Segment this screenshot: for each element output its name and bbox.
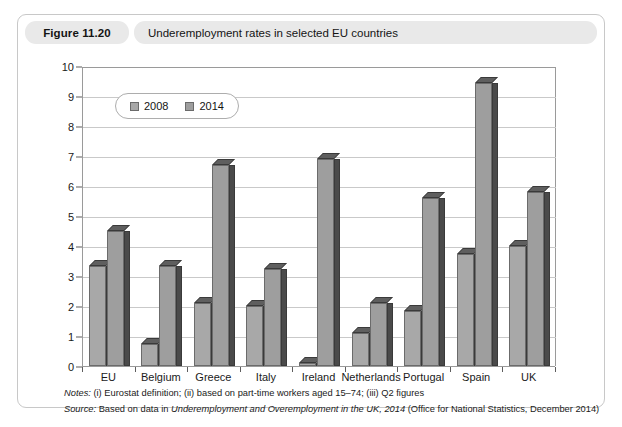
y-axis-tick-label: 6: [48, 181, 74, 193]
bar-front-face: [107, 231, 124, 366]
source-text-b: (Office for National Statistics, Decembe…: [405, 404, 599, 414]
bar-front-face: [422, 198, 439, 366]
legend-swatch-2008: [130, 102, 139, 111]
bar-italy-2008: [246, 306, 263, 366]
figure-title: Underemployment rates in selected EU cou…: [134, 21, 597, 44]
figure-card: Figure 11.20 Underemployment rates in se…: [17, 14, 605, 408]
bar-front-face: [141, 344, 158, 367]
bar-spain-2008: [457, 254, 474, 367]
bar-front-face: [509, 246, 526, 366]
source-line: Source: Based on data in Underemployment…: [64, 401, 590, 417]
bar-front-face: [457, 254, 474, 367]
x-axis-label-uk: UK: [521, 371, 536, 383]
bar-side-face: [492, 83, 498, 367]
x-axis-tick: [450, 367, 451, 372]
figure-header: Figure 11.20 Underemployment rates in se…: [25, 21, 597, 44]
notes-line: Notes: (i) Eurostat definition; (ii) bas…: [64, 385, 590, 401]
bar-front-face: [89, 266, 106, 367]
y-axis-tick-label: 3: [48, 271, 74, 283]
y-axis-tick-label: 0: [48, 361, 74, 373]
bar-front-face: [212, 165, 229, 366]
bar-belgium-2014: [159, 266, 176, 367]
y-axis-tick-label: 7: [48, 151, 74, 163]
x-axis-label-ireland: Ireland: [302, 371, 336, 383]
bar-front-face: [352, 333, 369, 366]
y-axis-tick-label: 4: [48, 241, 74, 253]
bar-side-face: [439, 198, 445, 366]
x-axis-tick: [397, 367, 398, 372]
bar-side-face: [387, 303, 393, 366]
bar-uk-2014: [527, 192, 544, 366]
bar-front-face: [370, 303, 387, 366]
legend-label-2014: 2014: [199, 100, 223, 112]
bar-front-face: [299, 363, 316, 366]
notes-text: (i) Eurostat definition; (ii) based on p…: [91, 388, 424, 398]
bar-ireland-2014: [317, 159, 334, 366]
bar-side-face: [281, 269, 287, 367]
bar-portugal-2014: [422, 198, 439, 366]
figure-number: Figure 11.20: [25, 21, 129, 44]
legend-label-2008: 2008: [144, 100, 168, 112]
x-axis-label-spain: Spain: [462, 371, 490, 383]
y-axis-tick-label: 2: [48, 301, 74, 313]
bar-uk-2008: [509, 246, 526, 366]
legend-swatch-2014: [185, 102, 194, 111]
bar-portugal-2008: [404, 311, 421, 367]
bar-side-face: [124, 231, 130, 366]
source-publication-title: Underemployment and Overemployment in th…: [171, 404, 405, 414]
y-axis-tick-label: 8: [48, 121, 74, 133]
y-axis-tick-label: 1: [48, 331, 74, 343]
legend-item-2008: 2008: [130, 100, 168, 112]
bar-front-face: [159, 266, 176, 367]
bar-side-face: [176, 266, 182, 367]
x-axis-label-portugal: Portugal: [403, 371, 444, 383]
chart-legend: 20082014: [115, 93, 239, 119]
x-axis-label-greece: Greece: [195, 371, 231, 383]
x-axis-label-italy: Italy: [256, 371, 276, 383]
bar-front-face: [527, 192, 544, 366]
bar-side-face: [229, 165, 235, 366]
bar-side-face: [334, 159, 340, 366]
bar-front-face: [404, 311, 421, 367]
bar-greece-2014: [212, 165, 229, 366]
bar-belgium-2008: [141, 344, 158, 367]
x-axis-tick: [135, 367, 136, 372]
source-text-a: Based on data in: [96, 404, 171, 414]
bar-eu-2014: [107, 231, 124, 366]
x-axis-tick: [187, 367, 188, 372]
bar-side-face: [544, 192, 550, 366]
x-axis-label-belgium: Belgium: [141, 371, 181, 383]
bar-front-face: [264, 269, 281, 367]
bar-eu-2008: [89, 266, 106, 367]
bar-italy-2014: [264, 269, 281, 367]
bar-spain-2014: [475, 83, 492, 367]
y-axis-tick-label: 5: [48, 211, 74, 223]
notes-block: Notes: (i) Eurostat definition; (ii) bas…: [64, 385, 590, 417]
y-axis-labels: 012345678910: [48, 67, 74, 367]
notes-label: Notes:: [64, 388, 91, 398]
bar-netherlands-2008: [352, 333, 369, 366]
x-axis-tick: [502, 367, 503, 372]
bar-front-face: [194, 303, 211, 366]
x-axis-tick: [292, 367, 293, 372]
x-axis-label-eu: EU: [101, 371, 116, 383]
source-label: Source:: [64, 404, 96, 414]
x-axis-tick: [345, 367, 346, 372]
x-axis-tick: [82, 367, 83, 372]
bar-netherlands-2014: [370, 303, 387, 366]
bar-greece-2008: [194, 303, 211, 366]
bar-front-face: [246, 306, 263, 366]
bar-ireland-2008: [299, 363, 316, 366]
bar-front-face: [317, 159, 334, 366]
x-axis-tick: [240, 367, 241, 372]
y-axis-tick-label: 10: [48, 61, 74, 73]
legend-item-2014: 2014: [185, 100, 223, 112]
y-axis-tick-label: 9: [48, 91, 74, 103]
x-axis-tick: [555, 367, 556, 372]
bar-front-face: [475, 83, 492, 367]
x-axis-label-netherlands: Netherlands: [341, 371, 400, 383]
